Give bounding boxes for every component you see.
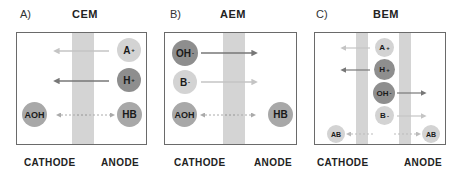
anode-label: ANODE [404, 157, 442, 168]
panel-letter: B) [170, 8, 181, 20]
panel-letter: C) [316, 8, 328, 20]
panel-title: CEM [72, 8, 98, 20]
ion-h-plus: H+ [374, 59, 395, 80]
panel-letter: A) [20, 8, 31, 20]
panel-title: AEM [220, 8, 246, 20]
cell-frame: A+ H+ OH- B- AB AB [314, 32, 446, 145]
panel-aem: B) AEM OH- B- AOH HB CATHODE ANODE [155, 0, 310, 180]
cathode-label: CATHODE [317, 157, 369, 168]
ion-a-plus: A+ [117, 38, 141, 62]
anode-label: ANODE [101, 157, 139, 168]
ion-b-minus: B- [173, 70, 197, 94]
cathode-label: CATHODE [24, 157, 76, 168]
ion-oh-minus: OH- [373, 82, 395, 104]
ion-hb: HB [117, 102, 142, 127]
panel-bem: C) BEM A+ H+ OH- B- AB AB CATHODE ANODE [307, 0, 462, 180]
ion-h-plus: H+ [117, 68, 141, 92]
ion-ab-anode: AB [422, 125, 440, 143]
ion-ab-cathode: AB [327, 125, 345, 143]
panel-title: BEM [373, 8, 399, 20]
cathode-label: CATHODE [174, 157, 226, 168]
cell-frame: A+ H+ AOH HB [16, 32, 147, 145]
ion-aoh: AOH [172, 102, 197, 127]
panel-cem: A) CEM A+ H+ AOH HB CATHODE ANODE [0, 0, 155, 180]
ion-a-plus: A+ [375, 38, 394, 57]
ion-oh-minus: OH- [172, 40, 198, 66]
ion-aoh: AOH [22, 102, 47, 127]
ion-hb: HB [268, 102, 293, 127]
ion-b-minus: B- [375, 106, 394, 125]
anode-label: ANODE [254, 157, 292, 168]
cell-frame: OH- B- AOH HB [164, 32, 297, 145]
